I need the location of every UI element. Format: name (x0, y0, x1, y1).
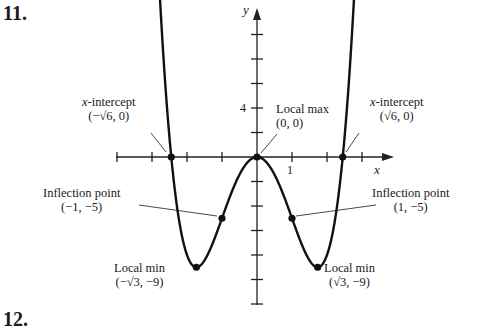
x-axis-arrow (382, 153, 394, 161)
inflection-right-label: Inflection point (1, −5) (372, 186, 449, 214)
inflection-right-coords: (1, −5) (394, 200, 428, 214)
key-point (218, 215, 225, 222)
key-point (193, 264, 200, 271)
x-axis-label: x (374, 162, 380, 178)
x-tick-label-1: 1 (287, 163, 293, 178)
y-axis-arrow (253, 8, 261, 20)
x-intercept-right-label: x-intercept (√6, 0) (370, 95, 423, 123)
local-min-left-coords: (−√3, −9) (115, 275, 163, 289)
local-max-coords: (0, 0) (276, 116, 303, 130)
local-min-right-label: Local min (√3, −9) (324, 261, 375, 289)
key-point (339, 153, 346, 160)
x-intercept-left-coords: (−√6, 0) (88, 109, 129, 123)
key-point (253, 153, 260, 160)
key-point (168, 153, 175, 160)
local-min-left-label: Local min (−√3, −9) (114, 261, 165, 289)
key-point (314, 264, 321, 271)
local-min-right-coords: (√3, −9) (329, 275, 370, 289)
key-point (288, 215, 295, 222)
y-tick-label-4: 4 (240, 101, 246, 116)
inflection-left-coords: (−1, −5) (61, 200, 102, 214)
local-max-label: Local max (0, 0) (276, 102, 329, 130)
x-intercept-left-label: x-intercept (−√6, 0) (82, 95, 135, 123)
inflection-left-label: Inflection point (−1, −5) (43, 186, 120, 214)
x-intercept-right-coords: (√6, 0) (380, 109, 414, 123)
y-axis-label: y (243, 2, 249, 18)
